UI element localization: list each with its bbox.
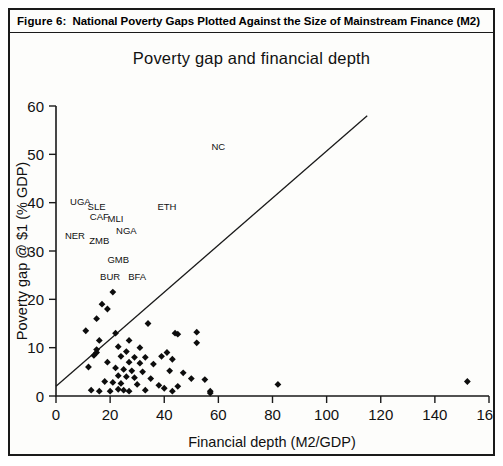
scatter-point (112, 365, 119, 372)
country-label: BUR (100, 271, 120, 282)
scatter-point (107, 388, 114, 395)
scatter-point (150, 361, 157, 368)
x-tick-label: 120 (368, 406, 393, 423)
scatter-point (85, 364, 92, 371)
scatter-point (112, 330, 119, 337)
x-tick-label: 80 (264, 406, 281, 423)
scatter-point (155, 382, 162, 389)
scatter-point (126, 359, 133, 366)
reference-line (56, 116, 367, 387)
scatter-point (128, 367, 135, 374)
scatter-point (82, 327, 89, 334)
country-label: GMB (107, 254, 129, 265)
scatter-point (147, 375, 154, 382)
x-tick-label: 0 (52, 406, 60, 423)
scatter-point (123, 348, 130, 355)
x-tick-label: 100 (314, 406, 339, 423)
x-tick-label: 160 (476, 406, 493, 423)
scatter-point (96, 337, 103, 344)
scatter-point (104, 306, 111, 313)
scatter-point (99, 301, 106, 308)
figure-frame: Figure 6: National Poverty Gaps Plotted … (8, 8, 495, 456)
scatter-point (96, 388, 103, 395)
scatter-point (161, 385, 168, 392)
x-axis-ticks: 020406080100120140160 (52, 396, 493, 423)
country-label: NER (65, 230, 85, 241)
scatter-point (118, 353, 125, 360)
scatter-point (169, 388, 176, 395)
scatter-point (88, 387, 95, 394)
scatter-point (123, 373, 130, 380)
scatter-point (136, 360, 143, 367)
scatter-point (174, 383, 181, 390)
x-tick-label: 140 (422, 406, 447, 423)
scatter-point (201, 376, 208, 383)
y-tick-label: 50 (27, 146, 44, 163)
scatter-point (118, 380, 125, 387)
scatter-point (142, 354, 149, 361)
country-label: ZMB (89, 235, 109, 246)
scatter-point (115, 386, 122, 393)
scatter-point (93, 315, 100, 322)
scatter-point (164, 349, 171, 356)
y-tick-label: 60 (27, 98, 44, 115)
y-tick-label: 0 (36, 388, 44, 405)
country-label: ETH (157, 201, 176, 212)
figure-caption-text: National Poverty Gaps Plotted Against th… (72, 15, 479, 27)
scatter-chart: 020406080100120140160 0102030405060 NCUG… (10, 33, 493, 458)
scatter-point (180, 369, 187, 376)
x-tick-label: 40 (156, 406, 173, 423)
figure-caption: Figure 6: National Poverty Gaps Plotted … (10, 10, 493, 33)
country-label: BFA (128, 271, 147, 282)
scatter-point (131, 354, 138, 361)
plot-area: Poverty gap and financial depth 02040608… (10, 33, 493, 458)
x-axis-title: Financial depth (M2/GDP) (188, 434, 356, 450)
scatter-point (193, 339, 200, 346)
scatter-point (109, 289, 116, 296)
figure-number-label: Figure 6: (17, 15, 66, 27)
axis-spines (56, 106, 489, 396)
country-label: CAF (90, 211, 109, 222)
scatter-point (134, 381, 141, 388)
scatter-point (126, 337, 133, 344)
y-tick-label: 10 (27, 339, 44, 356)
scatter-point (115, 372, 122, 379)
scatter-point (166, 367, 173, 374)
scatter-point (139, 368, 146, 375)
scatter-point (193, 329, 200, 336)
y-axis-ticks: 0102030405060 (27, 98, 56, 405)
scatter-point (126, 388, 133, 395)
scatter-point (101, 378, 108, 385)
scatter-point (131, 374, 138, 381)
scatter-point (464, 378, 471, 385)
x-tick-label: 20 (102, 406, 119, 423)
scatter-point (109, 379, 116, 386)
scatter-point (115, 343, 122, 350)
country-label: NGA (116, 225, 137, 236)
scatter-point (104, 359, 111, 366)
scatter-point (120, 387, 127, 394)
scatter-markers (82, 289, 470, 397)
x-tick-label: 60 (210, 406, 227, 423)
y-axis-title: Poverty gap @ $1 (% GDP) (14, 162, 30, 340)
scatter-point (169, 356, 176, 363)
country-label: NC (212, 141, 226, 152)
scatter-point (275, 381, 282, 388)
scatter-point (142, 387, 149, 394)
scatter-point (136, 344, 143, 351)
scatter-point (120, 366, 127, 373)
scatter-point (158, 353, 165, 360)
scatter-point (145, 320, 152, 327)
country-label: MLI (108, 213, 124, 224)
scatter-point (188, 375, 195, 382)
